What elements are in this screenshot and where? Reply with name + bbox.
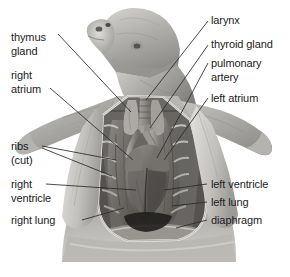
label-right-atrium-line1: right xyxy=(11,69,41,83)
label-larynx: larynx xyxy=(211,14,240,28)
label-thymus-gland: thymus gland xyxy=(11,31,46,58)
label-ribs-cut-line2: (cut) xyxy=(11,154,33,168)
label-right-ventricle-line2: ventricle xyxy=(11,192,51,206)
label-right-atrium: right atrium xyxy=(11,69,41,96)
label-right-atrium-line2: atrium xyxy=(11,83,41,97)
label-left-ventricle: left ventricle xyxy=(211,178,268,192)
label-right-ventricle-line1: right xyxy=(11,178,51,192)
label-pulmonary-artery-line2: artery xyxy=(211,71,261,85)
label-thymus-gland-line1: thymus xyxy=(11,31,46,45)
label-pulmonary-artery-line1: pulmonary xyxy=(211,57,261,71)
label-left-lung: left lung xyxy=(211,196,249,210)
label-left-atrium: left atrium xyxy=(211,92,258,106)
label-right-ventricle: right ventricle xyxy=(11,178,51,205)
label-thymus-gland-line2: gland xyxy=(11,45,46,59)
label-pulmonary-artery: pulmonary artery xyxy=(211,57,261,84)
label-right-lung: right lung xyxy=(11,214,55,228)
label-diaphragm: diaphragm xyxy=(211,214,262,228)
label-ribs-cut-line1: ribs xyxy=(11,140,33,154)
pig-head xyxy=(87,8,180,80)
label-ribs-cut: ribs (cut) xyxy=(11,140,33,167)
label-thyroid-gland: thyroid gland xyxy=(211,38,273,52)
anatomical-figure: thymus gland right atrium ribs (cut) rig… xyxy=(0,0,290,277)
